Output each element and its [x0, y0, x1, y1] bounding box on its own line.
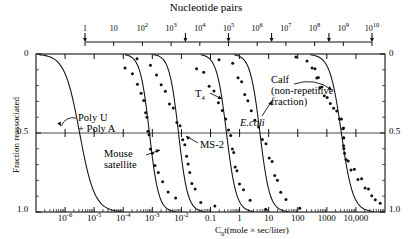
data-point: [142, 99, 145, 102]
data-point: [240, 80, 243, 83]
data-point: [190, 182, 193, 185]
annotation-calf-line1: Calf: [271, 74, 333, 85]
data-point: [140, 92, 143, 95]
data-point: [194, 187, 197, 190]
data-point: [342, 147, 345, 150]
data-point: [271, 160, 274, 163]
data-point: [185, 155, 188, 158]
data-point: [374, 198, 377, 201]
data-point: [353, 168, 356, 171]
data-point: [160, 83, 163, 86]
data-point: [136, 83, 139, 86]
data-point: [313, 67, 316, 70]
data-point: [237, 76, 240, 79]
data-point: [268, 157, 271, 160]
data-point: [144, 111, 147, 114]
annotation-poly-ua-line1: Poly U: [78, 112, 115, 123]
y-tick-label-top-right: 0: [389, 48, 394, 58]
data-point: [243, 93, 246, 96]
data-point: [164, 90, 167, 93]
x-axis-title: C0t(mole × sec/liter): [215, 225, 289, 235]
leader-poly-ua: [61, 118, 76, 126]
data-point: [131, 72, 134, 75]
data-point: [250, 109, 253, 112]
data-point: [208, 85, 211, 88]
top-axis-arrow-head: [270, 38, 274, 42]
top-axis-arrow-head: [327, 38, 331, 42]
data-point: [155, 74, 158, 77]
data-point: [124, 66, 127, 69]
data-point: [161, 180, 164, 183]
data-point: [379, 202, 382, 205]
data-point: [148, 133, 151, 136]
data-point: [227, 128, 230, 131]
data-point: [332, 107, 335, 110]
y-axis-title: Fraction reassociated: [11, 75, 21, 195]
data-point: [199, 201, 202, 204]
data-point: [175, 121, 178, 124]
data-point: [181, 138, 184, 141]
data-point: [145, 116, 148, 119]
data-point: [276, 179, 279, 182]
data-point: [149, 64, 152, 67]
annotation-ms2: MS-2: [200, 139, 224, 150]
data-point: [168, 102, 171, 105]
data-point: [174, 197, 177, 200]
data-point: [242, 188, 245, 191]
data-point: [218, 58, 221, 61]
data-point: [213, 205, 216, 208]
data-point: [146, 130, 149, 133]
y-tick-label-mid-right: 0.5: [389, 126, 400, 136]
annotation-calf-line3: fraction): [271, 96, 333, 107]
data-point: [340, 118, 343, 121]
top-axis-arrow-head: [370, 38, 374, 42]
data-point: [231, 147, 234, 150]
data-point: [264, 142, 267, 145]
annotation-t4: T4: [195, 88, 205, 99]
data-point: [284, 198, 287, 201]
data-point: [157, 171, 160, 174]
annotation-mouse-line1: Mouse: [104, 148, 137, 159]
data-point: [172, 107, 175, 110]
top-axis-arrow-head: [83, 38, 87, 42]
data-point: [229, 134, 232, 137]
plot-canvas: [0, 0, 412, 239]
data-point: [335, 109, 338, 112]
data-point: [264, 208, 267, 211]
data-point: [187, 163, 190, 166]
data-point: [294, 56, 297, 59]
data-point: [370, 194, 373, 197]
data-point: [273, 174, 276, 177]
data-point: [167, 191, 170, 194]
data-point: [343, 152, 346, 155]
annotation-t4-sub: 4: [201, 94, 204, 101]
data-point: [179, 124, 182, 127]
data-point: [367, 188, 370, 191]
data-point: [231, 62, 234, 65]
top-axis-arrow-head: [227, 38, 231, 42]
data-point: [249, 199, 252, 202]
data-point: [261, 138, 264, 141]
data-point: [360, 177, 363, 180]
data-point: [238, 183, 241, 186]
data-point: [217, 101, 220, 104]
data-point: [298, 207, 301, 210]
top-axis-arrow-head: [183, 38, 187, 42]
annotation-mouse-satellite: Mouse satellite: [104, 148, 137, 170]
data-point: [235, 169, 238, 172]
data-point: [356, 178, 359, 181]
data-point: [232, 151, 235, 154]
annotation-calf: Calf (non-repetitive fraction): [271, 74, 333, 107]
data-point: [153, 164, 156, 167]
data-point: [349, 168, 352, 171]
data-point: [342, 144, 345, 147]
annotation-ecoli: E.coli: [240, 117, 265, 128]
data-point: [224, 118, 227, 121]
y-tick-label-bottom-right: 1.0: [389, 204, 400, 214]
data-point: [305, 59, 308, 62]
data-point: [188, 171, 191, 174]
data-point: [212, 90, 215, 93]
annotation-calf-line2: (non-repetitive: [271, 85, 333, 96]
y-tick-label-bottom: 1.0: [17, 204, 28, 214]
data-point: [221, 109, 224, 112]
